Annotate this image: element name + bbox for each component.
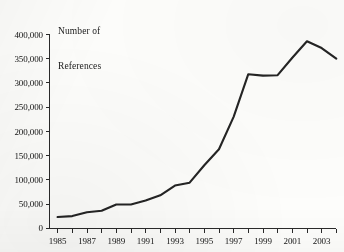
y-tick-label-350000: 350,000 bbox=[14, 54, 43, 64]
x-tick-label-2003: 2003 bbox=[313, 236, 331, 246]
y-axis-group: 400,000 350,000 300,000 250,000 200,000 … bbox=[14, 30, 49, 234]
x-tick-label-1993: 1993 bbox=[166, 236, 184, 246]
x-tick-label-1999: 1999 bbox=[254, 236, 272, 246]
y-tick-label-100000: 100,000 bbox=[14, 175, 43, 185]
y-tick-label-150000: 150,000 bbox=[14, 151, 43, 161]
x-tick-label-1989: 1989 bbox=[107, 236, 125, 246]
x-tick-label-1987: 1987 bbox=[78, 236, 96, 246]
y-tick-label-0: 0 bbox=[39, 223, 44, 233]
x-tick-label-2001: 2001 bbox=[283, 236, 301, 246]
x-tick-label-1985: 1985 bbox=[49, 236, 67, 246]
y-tick-label-50000: 50,000 bbox=[19, 199, 44, 209]
y-tick-labels: 400,000 350,000 300,000 250,000 200,000 … bbox=[14, 30, 43, 234]
x-tick-label-1995: 1995 bbox=[195, 236, 213, 246]
x-axis-group: 1985 1987 1989 1991 1993 1995 1997 1999 … bbox=[49, 229, 337, 247]
x-tick-label-1991: 1991 bbox=[137, 236, 155, 246]
line-chart-plot: 400,000 350,000 300,000 250,000 200,000 … bbox=[0, 0, 344, 252]
data-series-line bbox=[58, 41, 337, 217]
chart-figure: Number of References 400,000 350,000 300… bbox=[0, 0, 344, 252]
x-tick-label-1997: 1997 bbox=[225, 236, 243, 246]
y-tick-label-300000: 300,000 bbox=[14, 78, 43, 88]
y-tick-label-400000: 400,000 bbox=[14, 30, 43, 40]
y-tick-label-200000: 200,000 bbox=[14, 127, 43, 137]
x-tick-marks bbox=[58, 229, 337, 233]
y-tick-marks bbox=[46, 35, 50, 229]
x-tick-labels: 1985 1987 1989 1991 1993 1995 1997 1999 … bbox=[49, 236, 331, 246]
y-tick-label-250000: 250,000 bbox=[14, 102, 43, 112]
